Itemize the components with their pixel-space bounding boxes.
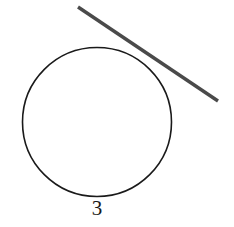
geometry-figure xyxy=(0,0,234,227)
figure-number-label: 3 xyxy=(0,198,194,219)
figure-canvas: 3 xyxy=(0,0,234,227)
line-segment-shape xyxy=(78,7,218,101)
circle-shape xyxy=(23,48,172,197)
